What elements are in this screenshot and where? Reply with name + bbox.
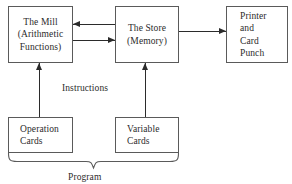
node-operation-cards-line-2: Cards: [20, 135, 43, 147]
node-printer-line-4: Punch: [240, 47, 264, 59]
node-the-mill: The Mill (Arithmetic Functions): [8, 6, 73, 63]
node-the-mill-line-2: (Arithmetic: [18, 28, 63, 40]
program-brace-path: [9, 153, 179, 168]
arrow-store-to-mill-head: [73, 21, 80, 27]
node-variable-cards-line-2: Cards: [127, 135, 150, 147]
label-instructions: Instructions: [62, 83, 108, 94]
node-the-store: The Store (Memory): [115, 6, 179, 63]
arrow-mill-to-store-head: [108, 37, 115, 43]
node-operation-cards: Operation Cards: [8, 117, 73, 153]
arrow-operation-cards-to-mill-line: [39, 63, 40, 117]
arrow-variable-cards-to-store-head: [142, 63, 148, 70]
node-the-mill-line-1: The Mill: [23, 16, 57, 28]
node-printer-line-2: and: [240, 22, 254, 34]
label-program: Program: [68, 172, 101, 183]
node-printer-line-1: Printer: [240, 10, 267, 22]
node-printer-and-card-punch: Printer and Card Punch: [226, 6, 288, 63]
node-variable-cards-line-1: Variable: [127, 123, 159, 135]
arrow-variable-cards-to-store-line: [145, 63, 146, 117]
node-the-mill-line-3: Functions): [20, 41, 62, 53]
arrow-store-to-printer-head: [219, 28, 226, 34]
block-diagram: The Mill (Arithmetic Functions) The Stor…: [0, 0, 292, 184]
program-brace: [0, 150, 192, 174]
node-variable-cards: Variable Cards: [115, 117, 179, 153]
node-the-store-line-2: (Memory): [127, 35, 167, 47]
arrow-operation-cards-to-mill-head: [36, 63, 42, 70]
node-the-store-line-1: The Store: [128, 22, 166, 34]
node-operation-cards-line-1: Operation: [20, 123, 59, 135]
node-printer-line-3: Card: [240, 35, 259, 47]
